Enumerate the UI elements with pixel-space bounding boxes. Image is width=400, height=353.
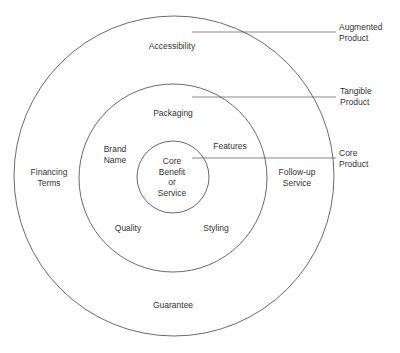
label-financing-terms: Financing Terms [31, 167, 68, 188]
label-tangible-product: Tangible Product [340, 86, 372, 107]
label-guarantee: Guarantee [153, 300, 193, 311]
label-brand-name: Brand Name [104, 144, 127, 165]
label-quality: Quality [115, 223, 141, 234]
label-packaging: Packaging [153, 108, 193, 119]
label-core-benefit: Core Benefit or Service [158, 156, 186, 198]
label-core-product: Core Product [339, 148, 368, 169]
label-features: Features [213, 141, 247, 152]
label-followup-service: Follow-up Service [279, 167, 316, 188]
label-augmented-product: Augmented Product [339, 22, 382, 43]
label-styling: Styling [203, 223, 229, 234]
label-accessibility: Accessibility [149, 41, 195, 52]
